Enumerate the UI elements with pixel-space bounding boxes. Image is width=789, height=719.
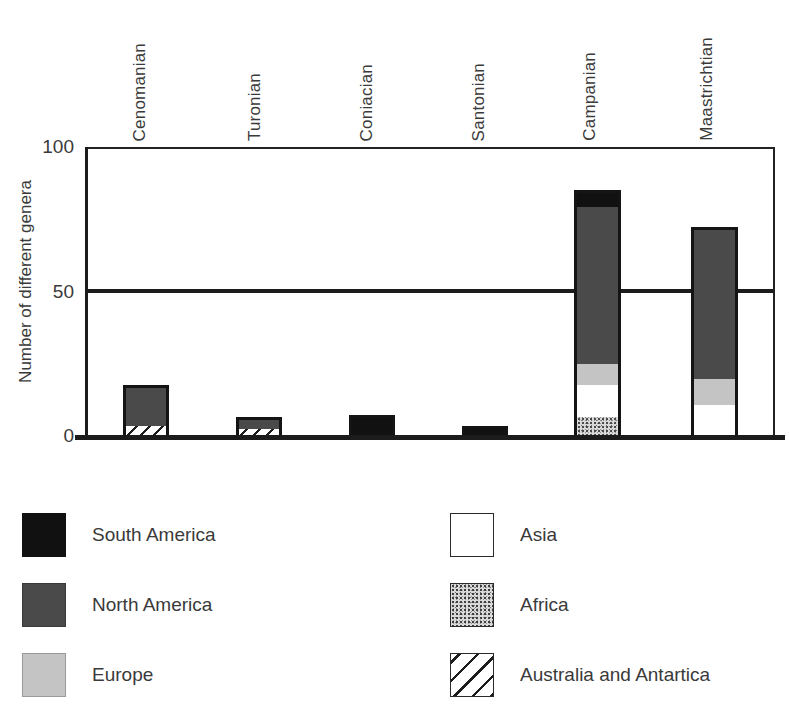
bar-segment-africa <box>577 417 618 437</box>
legend-label-europe: Europe <box>92 664 153 686</box>
legend-label-australia-and-antartica: Australia and Antartica <box>520 664 710 686</box>
x-axis-label-campanian: Campanian <box>581 52 598 141</box>
bar-chart-figure: Cenomanian Turonian Coniacian Santonian … <box>0 0 789 719</box>
legend-swatch-europe-icon <box>22 653 66 697</box>
bar-segment-asia <box>694 405 735 437</box>
x-axis-label-santonian: Santonian <box>470 63 487 141</box>
legend-column-left: South America North America Europe <box>22 500 216 710</box>
bar-coniacian <box>349 415 395 437</box>
y-axis-line <box>85 147 88 439</box>
legend-swatch-australia-and-antartica-icon <box>450 653 494 697</box>
x-axis-label-turonian: Turonian <box>246 73 263 141</box>
bar-segment-north-america <box>239 420 279 429</box>
gridline-50 <box>87 289 773 293</box>
chart-legend: South America North America Europe Asia … <box>0 500 789 719</box>
bar-campanian <box>574 190 621 437</box>
bar-segment-north-america <box>126 388 166 426</box>
x-axis-baseline <box>75 435 785 440</box>
legend-column-right: Asia Africa Australia and Antartica <box>450 500 710 710</box>
y-tick-label-50: 50 <box>22 282 74 301</box>
bar-segment-europe <box>694 379 735 405</box>
legend-swatch-north-america-icon <box>22 583 66 627</box>
legend-label-africa: Africa <box>520 594 569 616</box>
bar-segment-asia <box>577 385 618 417</box>
bar-turonian <box>236 417 282 437</box>
bar-segment-europe <box>577 364 618 384</box>
legend-item-south-america: South America <box>22 500 216 570</box>
bar-segment-south-america <box>577 193 618 207</box>
legend-swatch-africa-icon <box>450 583 494 627</box>
bar-maastrichtian <box>691 227 738 437</box>
legend-item-europe: Europe <box>22 640 216 710</box>
x-axis-label-cenomanian: Cenomanian <box>131 43 148 141</box>
legend-label-asia: Asia <box>520 524 557 546</box>
legend-swatch-south-america-icon <box>22 513 66 557</box>
legend-item-africa: Africa <box>450 570 710 640</box>
bar-cenomanian <box>123 385 169 437</box>
x-axis-category-labels: Cenomanian Turonian Coniacian Santonian … <box>0 0 789 147</box>
legend-label-south-america: South America <box>92 524 216 546</box>
legend-item-north-america: North America <box>22 570 216 640</box>
legend-item-asia: Asia <box>450 500 710 570</box>
plot-area <box>85 147 775 437</box>
y-tick-label-100: 100 <box>22 137 74 156</box>
bar-segment-north-america <box>577 207 618 364</box>
legend-item-australia-and-antartica: Australia and Antartica <box>450 640 710 710</box>
legend-swatch-asia-icon <box>450 513 494 557</box>
x-axis-label-maastrichtian: Maastrichtian <box>698 37 715 141</box>
y-tick-label-0: 0 <box>22 426 74 445</box>
legend-label-north-america: North America <box>92 594 212 616</box>
bar-segment-north-america <box>694 230 735 379</box>
x-axis-label-coniacian: Coniacian <box>358 64 375 141</box>
